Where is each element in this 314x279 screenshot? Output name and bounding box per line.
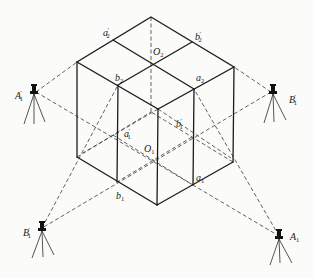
tripod-icon (24, 94, 45, 124)
theodolite-icon (269, 84, 277, 94)
tripod-icon (32, 231, 54, 258)
label-B1-prime-left: B′1 (23, 226, 31, 239)
label-A1-prime: A′1 (14, 89, 23, 102)
instrument-A1: A1 (270, 229, 299, 265)
label-A1: A1 (289, 231, 299, 243)
instrument-B1-prime-right: B′1 (264, 84, 297, 123)
label-b1: b1 (116, 190, 124, 202)
label-b2: b2 (115, 72, 123, 84)
theodolite-icon (275, 229, 283, 239)
label-O1: O1 (144, 143, 154, 155)
label-O2: O2 (153, 46, 163, 58)
label-a1-prime: a′1 (124, 127, 131, 140)
label-B1-prime-right: B′1 (289, 93, 297, 106)
instrument-B1-prime-left: B′1 (23, 221, 54, 258)
label-b2-prime: b′2 (195, 30, 202, 43)
tripod-icon (264, 94, 286, 123)
tripod-icon (270, 239, 292, 265)
label-a1: a1 (196, 172, 204, 184)
label-a2: a2 (196, 72, 204, 84)
theodolite-icon (30, 84, 38, 94)
label-b1-prime: b′1 (176, 117, 183, 130)
hidden-edges (77, 17, 233, 185)
isometric-survey-diagram: A′1 B′1 B′1 (0, 0, 314, 279)
instrument-A1-prime: A′1 (14, 84, 45, 124)
label-a2-prime: a′2 (103, 26, 110, 39)
